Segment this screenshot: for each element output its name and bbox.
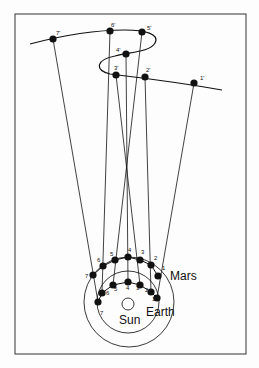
sky-dot-5 — [138, 28, 145, 35]
sight-line-6 — [102, 31, 110, 293]
sky-label-3: 3' — [114, 65, 118, 71]
sky-label-1: 1' — [200, 75, 204, 81]
sky-dot-6 — [106, 27, 113, 34]
mars-dot-6 — [99, 262, 106, 269]
earth-dot-2 — [147, 288, 154, 295]
sky-label-2: 2' — [146, 67, 150, 73]
sight-lines — [53, 31, 194, 302]
mars-dot-3 — [136, 256, 143, 263]
sky-dot-7 — [49, 35, 56, 42]
earth-label-5: 5 — [114, 286, 118, 292]
mars-dot-1 — [154, 272, 161, 279]
sky-dot-3 — [112, 71, 119, 78]
sun-label: Sun — [119, 313, 140, 327]
earth-dot-7 — [94, 298, 101, 305]
mars-label-2: 2 — [154, 255, 158, 261]
mars-label-6: 6 — [97, 257, 101, 263]
earth-label-7: 7 — [100, 310, 104, 316]
sight-line-7 — [53, 39, 98, 302]
mars-dot-2 — [147, 261, 154, 268]
earth-label-6: 6 — [106, 290, 110, 296]
sky-dot-2 — [141, 73, 148, 80]
sky-dot-4 — [122, 50, 129, 57]
mars-label-3: 3 — [141, 249, 145, 255]
earth-label-4: 4 — [126, 285, 130, 291]
mars-label-7: 7 — [85, 273, 89, 279]
mars-label-1: 1 — [162, 265, 166, 271]
sun — [122, 298, 134, 310]
sky-label-6: 6' — [111, 22, 115, 28]
mars-dot-7 — [89, 271, 96, 278]
mars-label-5: 5 — [110, 251, 114, 257]
frame — [15, 14, 246, 354]
position-dots — [49, 27, 197, 305]
sky-label-7: 7' — [56, 30, 60, 36]
earth-dot-6 — [98, 289, 105, 296]
mars-label-4: 4 — [128, 247, 132, 253]
mars-dot-5 — [111, 256, 118, 263]
sky-label-5: 5' — [147, 25, 151, 31]
sky-dot-1 — [190, 79, 197, 86]
mars-dot-4 — [124, 253, 131, 260]
sight-line-2 — [145, 77, 151, 292]
earth-label: Earth — [146, 305, 175, 319]
retrograde-diagram: 1' 2' 3' 4' 5' 6' 7' 1 2 3 4 5 6 7 1 2 3… — [0, 0, 259, 368]
mars-label: Mars — [170, 269, 197, 283]
sky-label-4: 4' — [116, 47, 120, 53]
